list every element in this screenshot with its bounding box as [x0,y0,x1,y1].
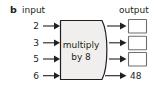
input-value-2: 3 [33,38,39,48]
output-box-2[interactable] [129,36,147,50]
panel-letter: b [10,4,17,15]
input-arrow-1 [43,23,60,30]
output-arrow-1 [107,23,127,30]
process-label-line2: by 8 [71,52,91,62]
input-column-header: input [22,5,46,15]
output-box-3[interactable] [129,53,147,67]
output-value-4: 48 [130,71,142,81]
input-value-4: 6 [33,71,39,81]
output-column-header: output [119,5,149,15]
function-machine-figure: b input output 2 3 5 6 multiply by 8 [0,0,152,87]
input-value-3: 5 [33,54,39,64]
process-label-line1: multiply [63,40,100,50]
input-arrow-4 [43,72,60,79]
input-arrow-3 [43,56,60,63]
output-arrow-3 [109,56,127,63]
output-arrow-2 [109,39,127,46]
input-arrow-2 [43,39,60,46]
output-arrow-4 [105,72,127,79]
input-value-1: 2 [33,21,39,31]
output-box-1[interactable] [129,20,147,34]
process-box [61,21,107,80]
